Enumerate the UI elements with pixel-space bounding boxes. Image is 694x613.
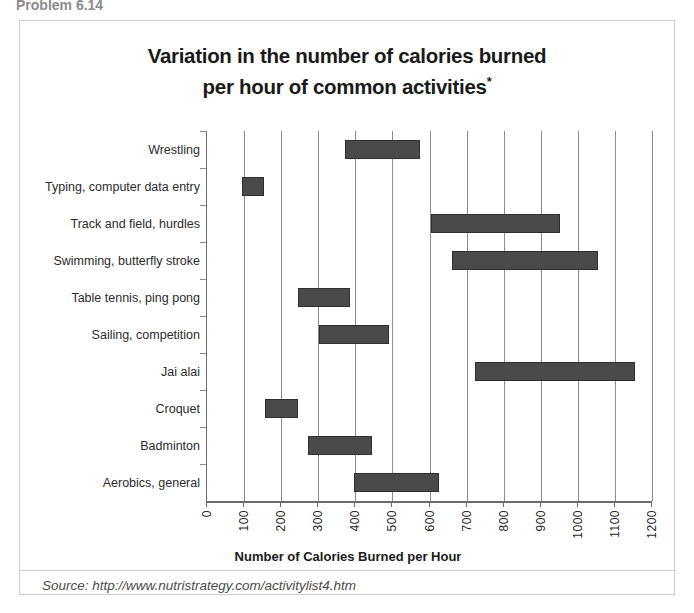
y-tick	[200, 205, 206, 206]
gridline	[615, 131, 616, 501]
range-bar	[475, 362, 635, 381]
y-axis-label: Typing, computer data entry	[30, 180, 200, 194]
x-tick	[243, 501, 244, 507]
x-tick-label: 1200	[645, 510, 659, 539]
x-tick	[280, 501, 281, 507]
range-bar	[319, 325, 389, 344]
x-tick-label: 0	[200, 510, 214, 517]
gridline	[578, 131, 579, 501]
x-tick	[391, 501, 392, 507]
figure-container: Variation in the number of calories burn…	[19, 20, 675, 595]
x-tick	[503, 501, 504, 507]
range-bar	[242, 177, 264, 196]
x-tick-label: 200	[274, 510, 288, 532]
range-bar	[431, 214, 560, 233]
y-tick	[200, 390, 206, 391]
x-tick-label: 400	[348, 510, 362, 532]
gridline	[541, 131, 542, 501]
x-tick-label: 500	[385, 510, 399, 532]
x-tick-label: 600	[423, 510, 437, 532]
y-axis-label: Croquet	[30, 402, 200, 416]
gridline	[504, 131, 505, 501]
x-tick-label: 300	[311, 510, 325, 532]
x-tick	[540, 501, 541, 507]
x-tick	[206, 501, 207, 507]
x-tick-label: 700	[460, 510, 474, 532]
gridline	[652, 131, 653, 501]
y-axis-label: Jai alai	[30, 365, 200, 379]
range-bar	[265, 399, 298, 418]
x-tick	[614, 501, 615, 507]
y-axis-label: Track and field, hurdles	[30, 217, 200, 231]
x-tick-label: 1100	[608, 510, 622, 538]
cut-off-header: Problem 6.14	[16, 0, 166, 11]
y-tick	[200, 168, 206, 169]
gridline	[430, 131, 431, 501]
y-tick	[200, 279, 206, 280]
y-tick	[200, 316, 206, 317]
y-tick	[200, 353, 206, 354]
plot-wrapper: WrestlingTyping, computer data entryTrac…	[20, 21, 676, 596]
source-divider	[20, 570, 676, 571]
x-tick	[354, 501, 355, 507]
plot-area	[206, 131, 651, 501]
y-axis-label: Wrestling	[30, 143, 200, 157]
x-tick	[577, 501, 578, 507]
range-bar	[452, 251, 598, 270]
range-bar	[345, 140, 420, 159]
gridline	[467, 131, 468, 501]
source-note: Source: http://www.nutristrategy.com/act…	[42, 578, 356, 593]
y-tick	[200, 427, 206, 428]
range-bar	[354, 473, 439, 492]
x-tick-label: 1000	[571, 510, 585, 539]
figure-page: Problem 6.14 Variation in the number of …	[0, 0, 694, 613]
x-tick-label: 100	[237, 510, 251, 532]
x-tick	[651, 501, 652, 507]
range-bar	[308, 436, 372, 455]
x-tick	[466, 501, 467, 507]
gridline	[281, 131, 282, 501]
y-tick	[200, 242, 206, 243]
range-bar	[298, 288, 350, 307]
x-tick	[317, 501, 318, 507]
y-axis-label: Table tennis, ping pong	[30, 291, 200, 305]
y-axis-label: Badminton	[30, 439, 200, 453]
y-tick	[200, 131, 206, 132]
x-tick	[429, 501, 430, 507]
y-axis-label: Aerobics, general	[30, 476, 200, 490]
y-tick	[200, 464, 206, 465]
x-tick-label: 800	[497, 510, 511, 532]
y-axis-label: Swimming, butterfly stroke	[30, 254, 200, 268]
x-tick-label: 900	[534, 510, 548, 532]
y-axis-label: Sailing, competition	[30, 328, 200, 342]
gridline	[392, 131, 393, 501]
y-axis-labels: WrestlingTyping, computer data entryTrac…	[28, 131, 200, 501]
x-axis-title: Number of Calories Burned per Hour	[20, 549, 676, 564]
